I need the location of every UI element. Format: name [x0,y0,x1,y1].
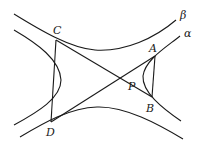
segment-CD [51,40,56,122]
label-alpha: α [184,27,192,40]
label-B: B [145,102,154,115]
segment-AB [152,56,155,97]
label-beta: β [179,9,186,22]
hyperbola-diagram: β α C A P B D [0,0,205,154]
label-C: C [53,24,62,37]
label-P: P [127,80,136,93]
label-D: D [45,126,55,139]
label-A: A [148,42,157,55]
beta-lower-branch [20,107,183,139]
